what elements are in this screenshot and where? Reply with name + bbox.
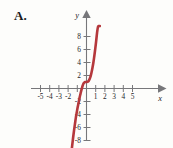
y-tick-label: 8 (77, 32, 81, 41)
x-axis-arrow-icon (158, 84, 167, 93)
x-tick-label: 5 (131, 92, 135, 101)
x-tick-label: 2 (103, 92, 107, 101)
figure-container: A. (0, 0, 173, 148)
x-tick-label: -4 (47, 92, 53, 101)
y-axis-label: y (74, 11, 79, 20)
x-tick-label: -2 (65, 92, 71, 101)
y-tick-label: 6 (77, 45, 81, 54)
y-tick-label: 2 (77, 71, 81, 80)
x-tick-label: 3 (112, 92, 116, 101)
x-tick-label: 4 (121, 92, 125, 101)
y-axis-arrow-icon (82, 10, 90, 18)
x-axis-label: x (157, 94, 162, 103)
coordinate-plane: -5 -4 -3 -2 1 2 3 4 5 8 6 4 2 -2 -4 -6 -… (0, 0, 173, 148)
y-tick-label: -8 (75, 136, 81, 145)
y-tick-label: 4 (77, 58, 81, 67)
x-tick-label: -5 (37, 92, 43, 101)
x-tick-label: 1 (94, 92, 98, 101)
x-tick-label: -3 (56, 92, 62, 101)
